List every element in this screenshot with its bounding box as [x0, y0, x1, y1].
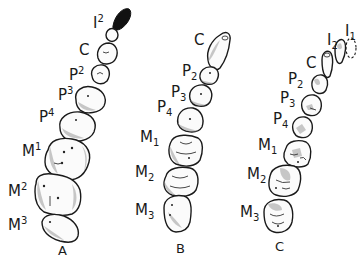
cusp-dot	[189, 118, 191, 120]
label-c-p2: P2	[288, 70, 303, 90]
cusp-dot	[200, 93, 202, 95]
cusp-dot	[57, 197, 59, 199]
cusp-dot	[75, 119, 77, 121]
label-c-m3: M3	[240, 203, 259, 223]
label-b-p2: P2	[182, 62, 197, 82]
label-b-m1: M1	[140, 128, 159, 148]
cusp-dot	[43, 185, 45, 187]
tooth-b-m1	[169, 135, 202, 166]
label-a-p2: P2	[69, 65, 84, 84]
label-a-p3: P3	[58, 85, 73, 104]
label-a-c: C	[79, 41, 89, 59]
cusp-dot	[275, 187, 277, 189]
label-c-i2: I2	[327, 31, 338, 51]
cusp-dot	[209, 72, 211, 74]
label-b-m3: M3	[135, 201, 154, 221]
tooth-a-canine	[98, 43, 118, 64]
label-a-m2: M2	[8, 181, 27, 200]
panel-b: C P2 P3 P4 M1 M2 M3 B	[135, 31, 230, 256]
cusp-dot	[171, 204, 173, 206]
panel-a: I2 C P2 P3 P4 M1 M2 M3 A	[8, 9, 131, 258]
label-a-i2: I2	[93, 13, 104, 32]
tooth-b-canine	[208, 33, 231, 70]
label-c-i1: I1	[345, 22, 356, 42]
cusp-dot	[71, 147, 73, 149]
cusp-dot	[169, 214, 171, 216]
label-b-m2: M2	[135, 163, 154, 183]
cusp-dot	[297, 161, 299, 163]
tooth-b-m3	[164, 196, 191, 233]
cusp-dot	[49, 221, 51, 223]
label-c-p3: P3	[280, 89, 295, 109]
tooth-a-i1	[106, 29, 118, 42]
panel-c: I1 I2 C P2 P3 P4 M1 M2 M3 C	[240, 22, 356, 254]
dentition-figure: I2 C P2 P3 P4 M1 M2 M3 A	[0, 0, 364, 261]
label-c-m1: M1	[258, 136, 277, 156]
caption-b: B	[176, 241, 185, 256]
label-c-p4: P4	[273, 110, 288, 130]
tooth-a-p2	[92, 65, 110, 84]
label-b-p4: P4	[157, 98, 172, 118]
cusp-dot	[277, 225, 279, 227]
label-a-m1: M1	[22, 141, 41, 160]
tooth-a-i2	[113, 9, 131, 30]
label-a-p4: P4	[39, 107, 54, 126]
label-b-p3: P3	[171, 83, 186, 103]
caption-c: C	[275, 239, 284, 254]
caption-a: A	[58, 243, 67, 258]
cusp-dot	[63, 151, 65, 153]
label-b-c: C	[194, 31, 204, 49]
cusp-dot	[188, 157, 190, 159]
label-c-c: C	[306, 54, 316, 72]
label-a-m3: M3	[8, 215, 27, 234]
label-c-m2: M2	[247, 165, 266, 185]
cusp-dot	[87, 95, 89, 97]
